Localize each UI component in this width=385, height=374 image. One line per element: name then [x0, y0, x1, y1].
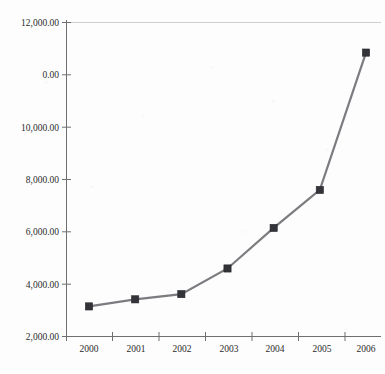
data-point-2005	[316, 186, 323, 193]
x-tick-label-2005: 2005	[313, 344, 332, 354]
y-tick-label-8000: 8,000.00	[26, 175, 60, 185]
x-tick-label-2000: 2000	[80, 344, 99, 354]
data-point-2002	[178, 291, 185, 298]
data-point-2001	[132, 296, 139, 303]
y-tick-label-0: 0.00	[42, 70, 59, 80]
x-tick-label-2006: 2006	[357, 344, 376, 354]
y-axis-labels: 12,000.00 10,000.00 8,000.00 6,000.00 4,…	[21, 18, 59, 342]
x-tick-label-2001: 2001	[127, 344, 146, 354]
y-tick-label-12000: 12,000.00	[21, 18, 59, 28]
y-tick-label-4000: 4,000.00	[26, 280, 60, 290]
data-point-2006	[362, 49, 369, 56]
data-point-2003	[224, 265, 231, 272]
x-tick-label-2003: 2003	[220, 344, 239, 354]
x-tick-label-2004: 2004	[266, 344, 285, 354]
x-tick-label-2002: 2002	[173, 344, 192, 354]
plot-area-background	[66, 22, 380, 336]
line-chart: 12,000.00 10,000.00 8,000.00 6,000.00 4,…	[0, 0, 385, 374]
data-point-2000	[85, 303, 92, 310]
chart-page: 12,000.00 10,000.00 8,000.00 6,000.00 4,…	[0, 0, 385, 374]
x-axis-labels: 2000 2001 2002 2003 2004 2005 2006	[80, 344, 376, 354]
data-point-2004	[270, 224, 277, 231]
y-tick-label-10000: 10,000.00	[21, 123, 59, 133]
y-tick-label-2000: 2,000.00	[26, 332, 60, 342]
y-tick-label-6000: 6,000.00	[26, 227, 60, 237]
